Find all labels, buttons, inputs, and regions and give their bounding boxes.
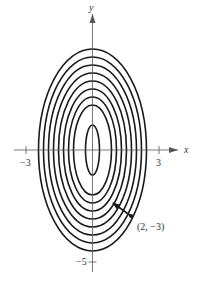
point-marker (129, 214, 133, 218)
point-label: (2, −3) (137, 221, 164, 233)
level-curve-diagram: x y −3 3 −5 (2, −3) (0, 0, 201, 286)
x-tick-label-neg3: −3 (20, 157, 31, 168)
y-tick-label-neg5: −5 (76, 256, 87, 267)
x-tick-label-3: 3 (156, 157, 161, 168)
x-axis-label: x (183, 144, 189, 155)
y-axis-label: y (88, 2, 94, 13)
